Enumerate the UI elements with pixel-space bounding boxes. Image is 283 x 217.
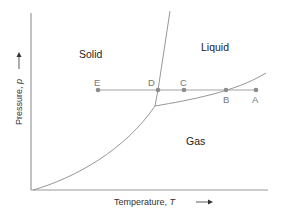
vaporization-curve: [155, 73, 266, 106]
point-d-marker: [156, 88, 161, 93]
point-b-marker: [224, 88, 229, 93]
region-gas-label: Gas: [186, 135, 205, 147]
point-d-label: D: [148, 77, 155, 88]
y-arrow-head-icon: [17, 52, 22, 57]
point-a-label: A: [252, 94, 259, 105]
y-axis-label-text: Pressure,: [14, 84, 24, 125]
point-b-label: B: [223, 94, 229, 105]
region-solid-label: Solid: [79, 48, 103, 60]
x-axis-label: Temperature, T: [114, 197, 177, 207]
x-axis-symbol: T: [170, 197, 177, 207]
y-axis-label: Pressure, p: [14, 79, 24, 125]
x-axis-label-text: Temperature,: [114, 197, 170, 207]
point-e-label: E: [94, 77, 100, 88]
x-arrow-head-icon: [208, 200, 213, 205]
point-a-marker: [254, 88, 259, 93]
phase-diagram: E D C B A Solid Liquid Gas Temperature, …: [0, 0, 283, 217]
y-axis-symbol: p: [14, 79, 24, 85]
point-e-marker: [96, 88, 101, 93]
sublimation-curve: [33, 106, 155, 190]
point-c-marker: [182, 88, 187, 93]
point-c-label: C: [180, 77, 187, 88]
region-liquid-label: Liquid: [201, 41, 229, 53]
